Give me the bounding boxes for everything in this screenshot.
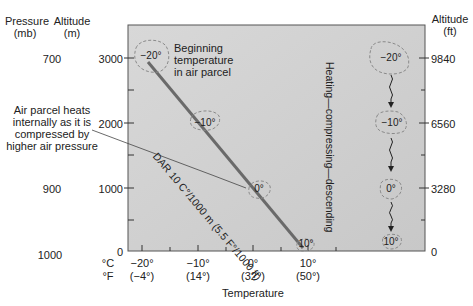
- annotation-heats: Air parcel heats internally as it is com…: [4, 104, 100, 152]
- altitude-m-header-line1: Altitude: [50, 15, 94, 27]
- pressure-header: Pressure (mb): [5, 15, 45, 39]
- pressure-header-line2: (mb): [5, 27, 45, 39]
- pressure-tick-900: 900: [32, 183, 72, 195]
- x-tick-minus20-c: −20°: [122, 257, 162, 269]
- annotation-beginning: Beginning temperature in air parcel: [174, 42, 233, 78]
- x-tick-10-c: 10°: [288, 257, 328, 269]
- annotation-heats-line2: internally as it is: [4, 116, 100, 128]
- altitude-m-header-line2: (m): [50, 27, 94, 39]
- pressure-header-line1: Pressure: [5, 15, 45, 27]
- x-axis-title: Temperature: [198, 287, 308, 299]
- altitude-ft-header: Altitude (ft): [428, 13, 472, 37]
- pressure-tick-1000: 1000: [30, 249, 70, 261]
- parcel-label-10: 10°: [293, 238, 319, 250]
- altitude-ft-tick-9840: 9840: [431, 53, 455, 65]
- altitude-m-header: Altitude (m): [50, 15, 94, 39]
- x-tick-minus10-c: −10°: [178, 257, 218, 269]
- annotation-beginning-line1: Beginning: [174, 42, 233, 54]
- parcel-right-label-minus20: −20°: [376, 52, 406, 64]
- annotation-beginning-line2: temperature: [174, 54, 233, 66]
- x-tick-10-f: (50°): [288, 270, 328, 282]
- pressure-tick-700: 700: [32, 53, 72, 65]
- altitude-ft-header-line2: (ft): [428, 25, 472, 37]
- x-unit-f: °F: [100, 270, 116, 282]
- altitude-tick-1000: 1000: [95, 183, 123, 195]
- parcel-label-minus20: −20°: [136, 50, 166, 62]
- parcel-right-label-10: 10°: [378, 236, 404, 248]
- x-unit-c: °C: [100, 257, 116, 269]
- annotation-heats-line4: higher air pressure: [4, 140, 100, 152]
- x-tick-minus10-f: (14°): [178, 270, 218, 282]
- altitude-tick-3000: 3000: [95, 53, 123, 65]
- altitude-ft-tick-0: 0: [431, 246, 437, 258]
- annotation-heats-line3: compressed by: [4, 128, 100, 140]
- vertical-process-label: Heating—compressing—descending: [324, 62, 336, 232]
- altitude-ft-tick-6560: 6560: [431, 118, 455, 130]
- parcel-label-minus10: −10°: [190, 117, 220, 129]
- altitude-ft-tick-3280: 3280: [431, 183, 455, 195]
- parcel-right-label-0: 0°: [378, 183, 404, 195]
- parcel-right-label-minus10: −10°: [377, 117, 407, 129]
- annotation-heats-line1: Air parcel heats: [4, 104, 100, 116]
- annotation-beginning-line3: in air parcel: [174, 66, 233, 78]
- altitude-ft-header-line1: Altitude: [428, 13, 472, 25]
- parcel-label-0: 0°: [246, 183, 272, 195]
- x-tick-minus20-f: (−4°): [122, 270, 162, 282]
